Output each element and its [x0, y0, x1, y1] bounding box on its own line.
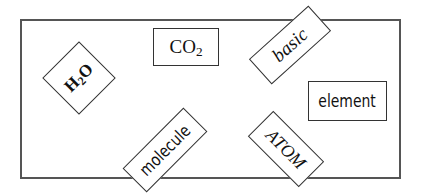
card-co2: CO2 [153, 28, 219, 66]
card-element: element [308, 81, 387, 121]
card-element-label: element [319, 91, 376, 111]
card-co2-label: CO2 [169, 36, 202, 58]
card-h2o-label: H2O [60, 59, 97, 96]
